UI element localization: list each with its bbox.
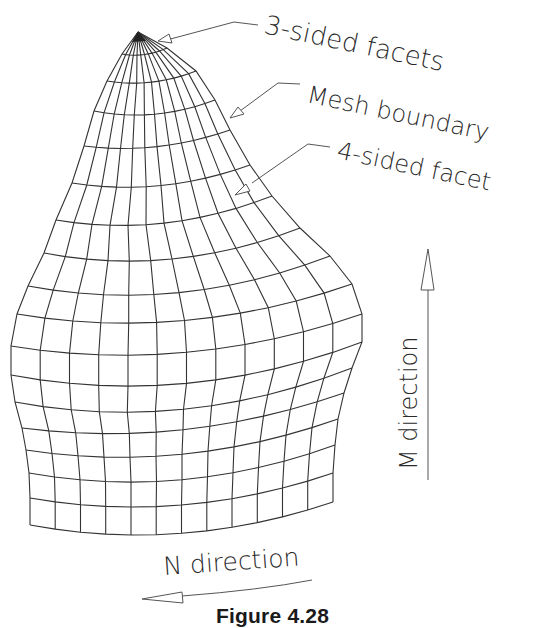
figure-caption: Figure 4.28 (216, 604, 356, 628)
leader-mesh-boundary (230, 83, 300, 118)
mesh-row-line (44, 228, 300, 261)
mesh-column-line (138, 32, 187, 533)
mesh-row-line (28, 256, 330, 295)
n-direction-arrow (142, 580, 312, 603)
label-mesh-boundary: Mesh boundary (305, 80, 492, 146)
leader-4-sided (235, 144, 330, 195)
mesh-column-line (40, 32, 138, 529)
mesh-column-line (99, 32, 138, 534)
mesh-column-line (127, 32, 138, 535)
label-4-sided-facet: 4-sided facet (335, 136, 494, 196)
label-m-direction: M direction (395, 336, 423, 470)
label-n-direction: N direction (162, 543, 300, 581)
leader-3-sided (158, 22, 258, 43)
mesh-row-line (17, 284, 352, 323)
label-3-sided-facets: 3-sided facets (262, 10, 447, 77)
